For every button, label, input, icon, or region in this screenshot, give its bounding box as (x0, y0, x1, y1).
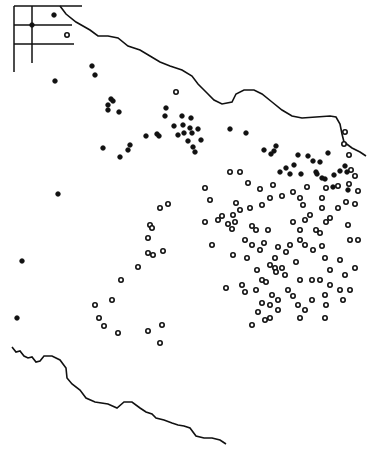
solid-dot-marker (101, 146, 106, 151)
solid-dot-marker (193, 150, 198, 155)
open-dot-marker (336, 206, 340, 210)
open-dot-marker (320, 244, 324, 248)
open-dot-marker (243, 290, 247, 294)
solid-dot-marker (284, 166, 289, 171)
solid-dot-marker (274, 144, 279, 149)
solid-dot-marker (56, 192, 61, 197)
open-dot-marker (203, 186, 207, 190)
solid-dot-marker (90, 64, 95, 69)
open-dot-marker (280, 266, 284, 270)
open-dot-marker (245, 256, 249, 260)
figure-caption (60, 447, 320, 457)
solid-dot-marker (189, 116, 194, 121)
solid-dot-marker (157, 134, 162, 139)
solid-dot-marker (199, 138, 204, 143)
solid-dot-marker (126, 148, 131, 153)
solid-dot-marker (262, 148, 267, 153)
open-dot-marker (283, 273, 287, 277)
open-dot-marker (146, 329, 150, 333)
solid-dot-marker (332, 173, 337, 178)
solid-dot-marker (164, 106, 169, 111)
solid-dot-marker (272, 149, 277, 154)
open-dot-marker (298, 278, 302, 282)
open-dot-marker (226, 222, 230, 226)
open-dot-marker (343, 130, 347, 134)
open-dot-marker (216, 218, 220, 222)
open-dot-marker (308, 213, 312, 217)
open-dot-marker (349, 168, 353, 172)
open-dot-marker (348, 288, 352, 292)
open-dot-marker (248, 206, 252, 210)
open-dot-marker (288, 243, 292, 247)
open-dot-marker (341, 298, 345, 302)
open-dot-marker (238, 170, 242, 174)
open-dot-marker (342, 142, 346, 146)
solid-dot-marker (278, 170, 283, 175)
open-dot-marker (160, 323, 164, 327)
open-dot-marker (303, 218, 307, 222)
open-dot-marker (298, 228, 302, 232)
open-dot-marker (203, 220, 207, 224)
open-dot-marker (240, 283, 244, 287)
solid-dot-marker (186, 139, 191, 144)
solid-dot-marker (228, 127, 233, 132)
solid-dot-marker (318, 160, 323, 165)
open-dot-markers (93, 90, 360, 345)
open-dot-marker (166, 202, 170, 206)
open-dot-marker (291, 190, 295, 194)
solid-dot-marker (326, 151, 331, 156)
open-dot-marker (323, 293, 327, 297)
solid-dot-marker (182, 131, 187, 136)
solid-dot-marker (343, 164, 348, 169)
open-dot-marker (208, 198, 212, 202)
open-dot-marker (284, 250, 288, 254)
open-dot-marker (258, 248, 262, 252)
open-dot-marker (291, 294, 295, 298)
open-dot-marker (318, 278, 322, 282)
open-dot-marker (320, 196, 324, 200)
open-dot-marker (276, 298, 280, 302)
open-dot-marker (151, 253, 155, 257)
open-dot-marker (298, 196, 302, 200)
open-dot-marker (270, 293, 274, 297)
open-dot-marker (356, 189, 360, 193)
open-dot-marker (298, 238, 302, 242)
open-dot-marker (231, 213, 235, 217)
open-dot-marker (250, 243, 254, 247)
open-dot-marker (286, 288, 290, 292)
open-dot-marker (310, 298, 314, 302)
open-dot-marker (323, 256, 327, 260)
open-dot-marker (353, 266, 357, 270)
open-dot-marker (246, 181, 250, 185)
solid-dot-marker (20, 259, 25, 264)
solid-dot-marker (117, 110, 122, 115)
open-dot-marker (254, 288, 258, 292)
solid-dot-marker (106, 108, 111, 113)
open-dot-marker (97, 316, 101, 320)
solid-dot-marker (292, 163, 297, 168)
open-dot-marker (174, 90, 178, 94)
open-dot-marker (262, 241, 266, 245)
open-dot-marker (255, 268, 259, 272)
open-dot-marker (324, 220, 328, 224)
solid-dot-marker (306, 154, 311, 159)
solid-dot-marker (315, 172, 320, 177)
solid-dot-marker (111, 99, 116, 104)
open-dot-marker (338, 288, 342, 292)
open-dot-marker (324, 186, 328, 190)
open-dot-marker (338, 258, 342, 262)
open-dot-marker (314, 228, 318, 232)
open-dot-marker (93, 303, 97, 307)
solid-dot-marker (181, 123, 186, 128)
northern-boundary-line (60, 6, 366, 156)
open-dot-marker (258, 187, 262, 191)
open-dot-marker (347, 182, 351, 186)
open-dot-marker (294, 260, 298, 264)
open-dot-marker (116, 331, 120, 335)
solid-dot-marker (15, 316, 20, 321)
open-dot-marker (266, 228, 270, 232)
open-dot-marker (230, 227, 234, 231)
open-dot-marker (210, 243, 214, 247)
open-dot-marker (238, 208, 242, 212)
open-dot-marker (260, 203, 264, 207)
